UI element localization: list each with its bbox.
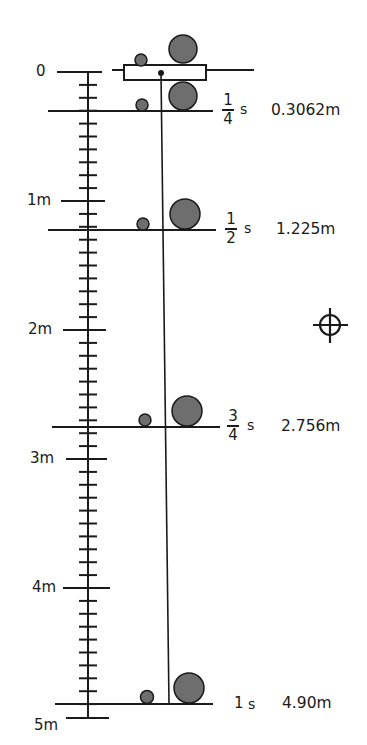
large-ball [172, 396, 202, 426]
time-unit: s [240, 102, 247, 116]
small-ball [135, 54, 147, 66]
balls-half-second [137, 199, 200, 230]
release-apparatus [112, 65, 254, 704]
distance-quarter-second: 0.3062m [271, 103, 340, 119]
time-fraction-three-quarters: 3 4 [227, 409, 239, 443]
small-ball [141, 691, 154, 704]
release-block [124, 65, 206, 80]
large-ball [169, 82, 197, 110]
time-whole-one: 1 [234, 696, 244, 711]
scale-label-0: 0 [36, 64, 46, 79]
scale-label-2m: 2m [28, 322, 52, 337]
time-unit: s [247, 418, 254, 432]
small-ball [136, 99, 148, 111]
time-fraction-quarter: 1 4 [222, 93, 234, 127]
balls-quarter-second [136, 82, 197, 111]
large-ball [174, 673, 204, 703]
balls-three-quarter-second [139, 396, 202, 426]
scale-label-3m: 3m [30, 451, 54, 466]
distance-half-second: 1.225m [276, 222, 335, 238]
plumb-line [161, 73, 169, 704]
crosshair-icon [313, 308, 348, 343]
large-ball [170, 199, 200, 229]
time-fraction-half: 1 2 [225, 212, 237, 246]
scale-label-5m: 5m [34, 718, 58, 733]
balls-one-second [141, 673, 205, 704]
distance-one-second: 4.90m [282, 696, 332, 712]
small-ball [139, 414, 151, 426]
scale-label-4m: 4m [32, 580, 56, 595]
small-ball [137, 218, 149, 230]
time-unit: s [244, 221, 251, 235]
time-unit: s [248, 697, 255, 711]
large-ball [169, 35, 197, 63]
scale-label-1m: 1m [27, 193, 51, 208]
balls-start [135, 35, 197, 66]
distance-three-quarter-second: 2.756m [281, 419, 340, 435]
